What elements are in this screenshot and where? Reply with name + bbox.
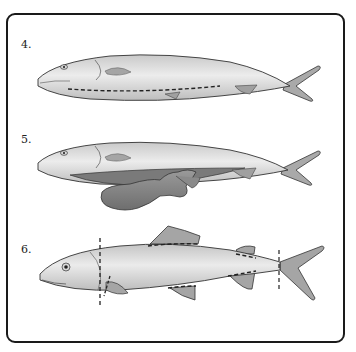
fish-step-4-illustration [0,50,356,110]
fish-step-5-illustration [0,140,356,220]
fish-step-6-illustration [0,215,356,305]
